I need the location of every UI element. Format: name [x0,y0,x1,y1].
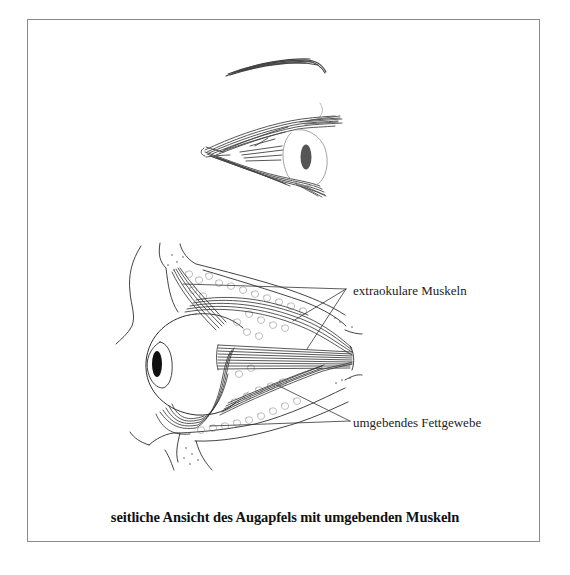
top-pupil [301,145,312,170]
face-contour [116,246,141,344]
eye-anatomy-illustration [0,0,570,575]
label-extraocular-muscles: extraokulare Muskeln [353,284,467,297]
top-muscle-bundle [201,116,342,196]
muscle-lateral-rectus [217,345,353,370]
top-eye-sketch [201,59,342,197]
muscle-inferior-oblique [156,348,234,434]
muscle-superior-rectus [185,297,352,355]
pupil [152,351,162,377]
muscle-inferior-rectus [220,362,352,415]
orbit-cross-section [116,243,362,470]
label-surrounding-fat: umgebendes Fettgewebe [353,416,481,429]
figure-caption: seitliche Ansicht des Augapfels mit umge… [0,509,570,526]
fat-tissue-texture-upper [186,271,307,340]
upper-orbit-rim [159,243,178,312]
lower-orbit-rim [149,433,180,462]
eyebrow-sketch [226,59,326,76]
muscle-superior-oblique [172,268,226,330]
